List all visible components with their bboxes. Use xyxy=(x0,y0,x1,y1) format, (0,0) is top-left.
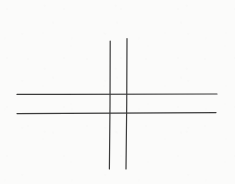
drawing-canvas xyxy=(0,0,235,184)
horizontal-line-bottom xyxy=(17,113,216,114)
vertical-line-right xyxy=(126,39,127,170)
vertical-line-left xyxy=(109,41,110,169)
pen-strokes xyxy=(17,39,217,170)
stroke-layer xyxy=(0,0,235,184)
